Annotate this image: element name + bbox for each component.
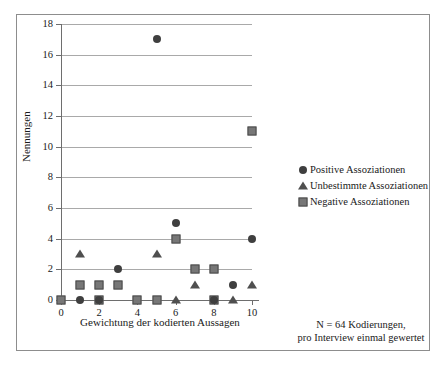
gridline — [61, 177, 252, 178]
gridline — [61, 85, 252, 86]
legend-item: Unbestimmte Assoziationen — [297, 178, 432, 194]
y-tick-label: 10 — [43, 141, 54, 152]
data-point-square-icon — [95, 280, 104, 289]
data-point-square-icon — [57, 296, 66, 305]
legend-item-label: Positive Assoziationen — [310, 165, 405, 176]
gridline — [61, 208, 252, 209]
data-point-square-icon — [133, 296, 142, 305]
data-point-triangle-icon — [171, 296, 181, 304]
chart-note-line-1: N = 64 Kodierungen, — [286, 318, 436, 331]
y-tick-label: 0 — [48, 295, 53, 306]
y-tick-label: 12 — [43, 111, 54, 122]
legend-item-label: Negative Assoziationen — [310, 197, 409, 208]
y-tick-label: 14 — [43, 80, 54, 91]
data-point-circle-icon — [172, 219, 180, 227]
gridline — [61, 55, 252, 56]
y-axis-line — [61, 24, 62, 300]
data-point-circle-icon — [76, 296, 84, 304]
data-point-square-icon — [190, 265, 199, 274]
data-point-circle-icon — [229, 281, 237, 289]
chart-note-line-2: pro Interview einmal gewertet — [286, 331, 436, 344]
data-point-square-icon — [152, 296, 161, 305]
y-tick-label: 8 — [48, 172, 53, 183]
legend-marker-triangle-icon — [297, 179, 308, 193]
gridline — [61, 269, 252, 270]
data-point-circle-icon — [153, 35, 161, 43]
data-point-circle-icon — [114, 265, 122, 273]
data-point-circle-icon — [248, 235, 256, 243]
gridline — [61, 239, 252, 240]
data-point-square-icon — [171, 234, 180, 243]
data-point-square-icon — [114, 280, 123, 289]
y-tick-label: 6 — [48, 203, 53, 214]
y-tick-label: 4 — [48, 233, 53, 244]
y-axis-title: Nennungen — [20, 111, 32, 162]
y-tick-label: 18 — [43, 19, 54, 30]
data-point-triangle-icon — [247, 280, 257, 288]
legend-marker-circle-icon — [297, 163, 308, 177]
gridline — [61, 24, 252, 25]
data-point-triangle-icon — [75, 250, 85, 258]
x-axis-title: Gewichtung der kodierten Aussagen — [61, 316, 259, 328]
legend-item: Negative Assoziationen — [297, 194, 432, 210]
gridline — [61, 147, 252, 148]
y-tick-label: 16 — [43, 49, 54, 60]
x-tick-mark — [252, 301, 253, 305]
data-point-circle-icon — [210, 296, 218, 304]
data-point-square-icon — [248, 127, 257, 136]
legend-item-label: Unbestimmte Assoziationen — [310, 181, 428, 192]
y-tick-label: 2 — [48, 264, 53, 275]
legend-marker-square-icon — [297, 195, 308, 209]
chart-note: N = 64 Kodierungen, pro Interview einmal… — [286, 318, 436, 344]
data-point-square-icon — [76, 280, 85, 289]
data-point-triangle-icon — [190, 280, 200, 288]
data-point-circle-icon — [95, 296, 103, 304]
data-point-triangle-icon — [228, 296, 238, 304]
data-point-triangle-icon — [152, 250, 162, 258]
scatter-chart-figure: Nennungen 024681012141618 0246810 Gewich… — [0, 0, 445, 366]
plot-area: 024681012141618 0246810 — [61, 24, 252, 300]
gridline — [61, 116, 252, 117]
data-point-square-icon — [209, 265, 218, 274]
legend-item: Positive Assoziationen — [297, 162, 432, 178]
chart-legend: Positive AssoziationenUnbestimmte Assozi… — [297, 162, 432, 210]
